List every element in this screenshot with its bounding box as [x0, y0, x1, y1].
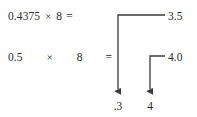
connector-from-result-1-to-digit-1: [118, 15, 165, 89]
diagram-canvas: 0.4375×8= 0.5×8= 3.5 4.0 .3 4: [0, 0, 197, 117]
connector-layer: [0, 0, 197, 117]
connector-from-result-2-to-digit-2: [150, 56, 165, 89]
